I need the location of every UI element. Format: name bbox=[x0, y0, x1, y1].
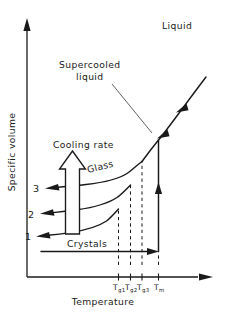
dashed-guide-lines bbox=[119, 161, 159, 265]
tick-label-tg1: Tg1 bbox=[112, 283, 126, 294]
cooling-rate-block-arrow-icon bbox=[60, 151, 86, 234]
label-crystals: Crystals bbox=[67, 238, 107, 249]
arrowhead-glass-1-icon bbox=[36, 232, 51, 239]
label-group: Liquid Supercooled liquid Cooling rate G… bbox=[6, 20, 192, 307]
arrowhead-supercooled-flow-icon bbox=[157, 130, 170, 139]
arrowhead-glass-3-icon bbox=[45, 184, 60, 191]
label-rate-3: 3 bbox=[33, 183, 39, 194]
tick-label-tm: Tm bbox=[153, 283, 165, 293]
arrowhead-liquid-flow-icon bbox=[176, 104, 189, 113]
label-rate-2: 2 bbox=[28, 209, 34, 220]
axis-group bbox=[23, 18, 213, 280]
y-axis-label: Specific volume bbox=[6, 113, 17, 192]
x-axis-label: Temperature bbox=[71, 296, 135, 307]
curve-glass-1 bbox=[48, 209, 119, 235]
label-liquid: Liquid bbox=[162, 20, 192, 31]
tick-label-tg2: Tg2 bbox=[124, 283, 138, 294]
specific-volume-temperature-chart: Liquid Supercooled liquid Cooling rate G… bbox=[0, 0, 228, 313]
figure-container: Liquid Supercooled liquid Cooling rate G… bbox=[0, 0, 228, 313]
arrowhead-crystals-icon bbox=[147, 248, 159, 255]
label-supercooled-line1: Supercooled bbox=[59, 59, 120, 70]
x-axis-arrowhead-icon bbox=[199, 274, 213, 281]
arrowhead-glass-2-icon bbox=[40, 209, 55, 216]
arrowhead-melting-jump-icon bbox=[155, 182, 162, 194]
label-cooling-rate: Cooling rate bbox=[53, 139, 114, 150]
y-axis-arrowhead-icon bbox=[23, 18, 30, 31]
label-rate-1: 1 bbox=[25, 231, 31, 242]
curve-liquid-supercooled bbox=[142, 77, 206, 162]
label-supercooled-line2: liquid bbox=[76, 71, 104, 82]
supercooled-leader-line bbox=[112, 84, 152, 133]
tick-label-tg3: Tg3 bbox=[136, 283, 150, 294]
label-glass: Glass bbox=[86, 158, 115, 175]
